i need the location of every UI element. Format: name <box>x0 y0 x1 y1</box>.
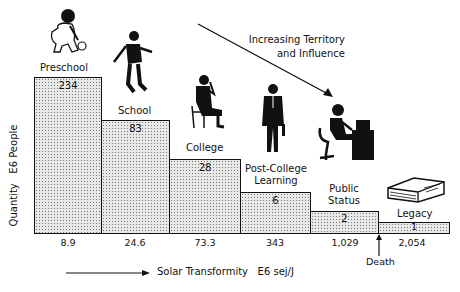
y-axis-label: Quantity E6 People <box>8 121 19 231</box>
label-preschool: Preschool <box>40 62 88 74</box>
bar-value: 2 <box>311 213 378 224</box>
label-post-college-line1: Post-College <box>243 163 309 175</box>
bar-preschool: 234 <box>34 77 102 234</box>
x-axis-label: Solar Transformity E6 sej/J <box>157 266 294 277</box>
death-label: Death <box>366 256 395 267</box>
annotation-line2: and Influence <box>245 47 345 61</box>
label-public-status: Public Status <box>327 183 361 207</box>
bar-college: 28 <box>169 159 241 234</box>
book-legacy-icon <box>384 174 448 204</box>
annotation-line1: Increasing Territory <box>245 33 345 47</box>
label-post-college: Post-College Learning <box>243 163 309 187</box>
professional-figure-icon <box>258 82 288 154</box>
death-arrow-icon <box>374 234 384 256</box>
bar-value: 6 <box>241 195 310 206</box>
label-public-line2: Status <box>327 195 361 207</box>
bar-school: 83 <box>101 120 170 234</box>
bar-value: 83 <box>102 123 169 134</box>
label-legacy: Legacy <box>397 208 432 220</box>
bar-post-college: 6 <box>240 192 311 234</box>
student-seated-figure-icon <box>188 72 226 130</box>
x-tick: 343 <box>245 237 305 248</box>
x-tick: 24.6 <box>105 237 165 248</box>
label-public-line1: Public <box>327 183 361 195</box>
bar-value: 28 <box>170 162 240 173</box>
bar-legacy: 1 <box>378 222 450 234</box>
child-figure-icon <box>110 28 155 100</box>
label-post-college-line2: Learning <box>243 175 309 187</box>
preschooler-figure-icon <box>40 6 90 56</box>
bar-value: 234 <box>35 80 101 91</box>
x-tick: 8.9 <box>38 237 98 248</box>
bar-value: 1 <box>379 222 449 232</box>
label-college: College <box>186 142 223 154</box>
x-tick: 2,054 <box>382 237 442 248</box>
bar-public-status: 2 <box>310 211 379 234</box>
office-worker-figure-icon <box>316 100 378 162</box>
x-tick: 73.3 <box>175 237 235 248</box>
x-axis-arrow-icon <box>66 269 150 277</box>
annotation-text: Increasing Territory and Influence <box>245 33 345 61</box>
label-school: School <box>118 105 151 117</box>
x-tick: 1,029 <box>315 237 375 248</box>
